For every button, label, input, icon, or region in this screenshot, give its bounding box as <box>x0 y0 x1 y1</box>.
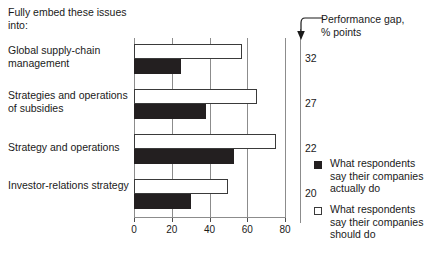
x-tick-mark-20 <box>172 218 173 222</box>
performance-gap-note-line1: Performance gap, <box>321 13 429 26</box>
x-tick-label-60: 60 <box>242 224 253 235</box>
category-label-strategy-and-operations: Strategy and operations <box>8 141 132 154</box>
category-label-global-supply-chain-management: Global supply-chain management <box>8 44 132 70</box>
bar-actually-do-2 <box>134 149 234 164</box>
x-tick-mark-0 <box>134 218 135 222</box>
bar-should-do-2 <box>134 134 276 149</box>
x-tick-mark-60 <box>247 218 248 222</box>
legend-label-should-do: What respondents say their companies sho… <box>330 203 430 241</box>
gridline-60 <box>247 38 248 218</box>
performance-gap-value-1: 27 <box>305 97 317 109</box>
performance-gap-note: Performance gap, % points <box>321 13 429 38</box>
bar-should-do-0 <box>134 44 242 59</box>
gridline-80 <box>285 38 286 218</box>
down-arrow-icon <box>292 16 324 42</box>
plot-area <box>134 38 285 218</box>
x-tick-mark-80 <box>285 218 286 222</box>
gap-column-divider <box>300 29 301 223</box>
category-label-investor-relations-strategy: Investor-relations strategy <box>8 179 132 192</box>
x-tick-label-80: 80 <box>279 224 290 235</box>
bar-actually-do-0 <box>134 59 181 74</box>
performance-gap-value-3: 20 <box>305 187 317 199</box>
x-tick-label-0: 0 <box>131 224 137 235</box>
x-tick-mark-40 <box>210 218 211 222</box>
performance-gap-value-0: 32 <box>305 52 317 64</box>
x-tick-label-20: 20 <box>166 224 177 235</box>
bar-should-do-3 <box>134 179 228 194</box>
bar-actually-do-1 <box>134 104 206 119</box>
x-tick-label-40: 40 <box>204 224 215 235</box>
legend-swatch-should-do <box>314 207 322 215</box>
performance-gap-note-line2: % points <box>321 26 429 39</box>
category-label-strategies-and-operations-of-subsidies: Strategies and operations of subsidies <box>8 89 132 115</box>
bar-actually-do-3 <box>134 194 191 209</box>
legend-swatch-actually-do <box>314 161 322 169</box>
bar-should-do-1 <box>134 89 257 104</box>
bar-chart: Fully embed these issues into: Global su… <box>0 0 434 265</box>
chart-header-title: Fully embed these issues into: <box>8 6 133 32</box>
legend-label-actually-do: What respondents say their companies act… <box>330 157 430 195</box>
performance-gap-value-2: 22 <box>305 142 317 154</box>
